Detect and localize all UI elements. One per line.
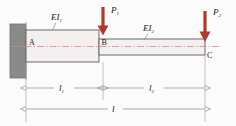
beam-segment-2 bbox=[99, 39, 205, 55]
dimension-l-label-bg bbox=[108, 102, 123, 115]
beam-segment-1 bbox=[26, 30, 99, 62]
support-block bbox=[10, 24, 26, 78]
node-label-C: C bbox=[207, 51, 212, 60]
node-label-A: A bbox=[29, 38, 35, 47]
node-label-B: B bbox=[102, 38, 107, 47]
beam-diagram-canvas: A B C EI1 EI2 P1 P2 bbox=[0, 0, 236, 126]
beam-diagram: A B C EI1 EI2 P1 P2 bbox=[0, 0, 236, 126]
fixed-support-wall bbox=[10, 22, 26, 80]
